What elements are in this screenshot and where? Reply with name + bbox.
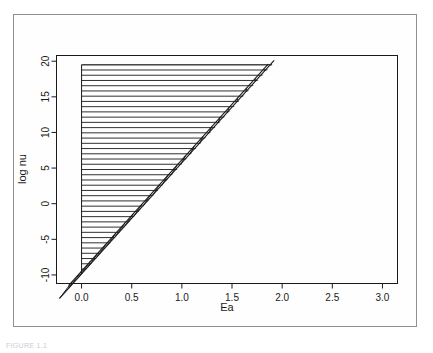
ladder-tick bbox=[134, 204, 142, 216]
y-axis-tick-labels: -10-505101520 bbox=[40, 55, 51, 282]
ladder-tick bbox=[153, 184, 160, 195]
x-tick-label: 3.0 bbox=[376, 292, 390, 303]
hatched-region bbox=[55, 65, 400, 274]
ladder-tick bbox=[125, 213, 134, 226]
ladder-tick bbox=[97, 242, 108, 257]
figure-root: 0.00.51.01.52.02.53.0 -10-505101520 Ea l… bbox=[0, 0, 433, 353]
figure-caption: FIGURE 1.1 bbox=[6, 341, 186, 351]
ladder-tick bbox=[115, 223, 125, 236]
ladder-tick bbox=[106, 233, 116, 247]
y-tick-label: 10 bbox=[40, 126, 51, 138]
y-tick-label: 15 bbox=[40, 91, 51, 103]
y-tick-label: 5 bbox=[40, 165, 51, 171]
y-tick-label: 0 bbox=[40, 200, 51, 206]
x-tick-label: 2.0 bbox=[275, 292, 289, 303]
y-tick-label: -5 bbox=[40, 234, 51, 243]
y-axis-title: log nu bbox=[16, 154, 28, 184]
ladder-tick bbox=[69, 271, 82, 288]
plot-canvas: 0.00.51.01.52.02.53.0 -10-505101520 Ea l… bbox=[0, 0, 433, 353]
x-tick-label: 0.0 bbox=[75, 292, 89, 303]
y-tick-label: -10 bbox=[40, 267, 51, 282]
x-axis-tick-marks bbox=[82, 284, 383, 289]
x-tick-label: 0.5 bbox=[125, 292, 139, 303]
x-tick-label: 1.0 bbox=[175, 292, 189, 303]
constraint-ladder-ticks bbox=[59, 69, 264, 299]
y-axis-tick-marks bbox=[52, 61, 57, 275]
ladder-tick bbox=[264, 69, 265, 71]
x-axis-title: Ea bbox=[220, 301, 234, 313]
ladder-tick bbox=[87, 252, 98, 268]
y-tick-label: 20 bbox=[40, 55, 51, 67]
x-tick-label: 2.5 bbox=[325, 292, 339, 303]
